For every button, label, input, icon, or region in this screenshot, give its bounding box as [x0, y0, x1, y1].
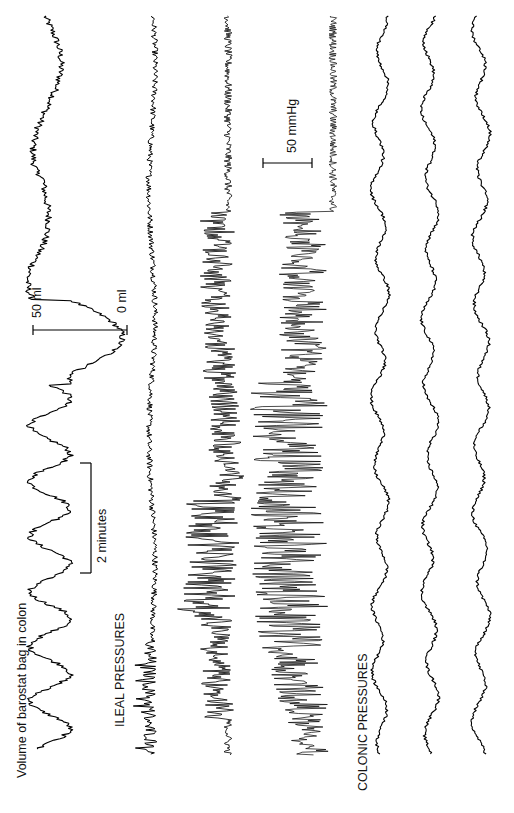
ileal-pressure-2-trace — [178, 16, 244, 755]
time-scale-label: 2 minutes — [96, 509, 109, 563]
barostat-volume-trace — [26, 16, 125, 749]
tracing-figure — [0, 0, 514, 813]
volume-scale-bar — [33, 325, 127, 335]
pressure-traces — [26, 16, 491, 755]
volume-top-label: 50 ml — [31, 287, 44, 318]
pressure-scale-label: 50 mmHg — [286, 99, 299, 153]
colonic-pressures-label: COLONIC PRESSURES — [357, 653, 370, 791]
pressure-scale-bar — [263, 158, 312, 168]
ileal-pressures-label: ILEAL PRESSURES — [114, 613, 127, 727]
ileal-pressure-1-trace — [133, 16, 158, 754]
barostat-label: Volume of barostat bag in colon — [16, 603, 29, 778]
colonic-pressure-3-trace — [471, 16, 491, 754]
colonic-pressure-1-trace — [370, 16, 390, 754]
volume-bottom-label: 0 ml — [116, 289, 129, 313]
colonic-pressure-2-trace — [420, 16, 440, 754]
time-scale-bar — [80, 463, 91, 573]
